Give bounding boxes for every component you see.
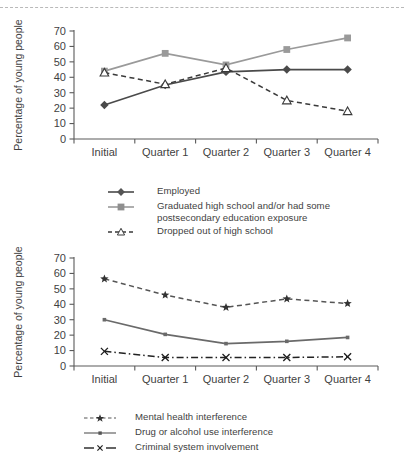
data-point bbox=[283, 96, 292, 104]
y-tick-label: 70 bbox=[54, 252, 66, 264]
data-point bbox=[161, 291, 169, 299]
outcomes-legend: Employed Graduated high school and/or ha… bbox=[0, 185, 404, 239]
y-tick-label: 60 bbox=[54, 40, 66, 52]
series-group bbox=[100, 274, 352, 311]
legend-label: Graduated high school and/or had some po… bbox=[157, 200, 330, 224]
y-tick-label: 10 bbox=[54, 117, 66, 129]
y-tick-label: 20 bbox=[54, 329, 66, 341]
dashdot-x-key bbox=[82, 441, 128, 455]
barriers-legend: Mental health interference Drug or alcoh… bbox=[0, 411, 404, 455]
data-point bbox=[285, 340, 289, 344]
y-tick-label: 50 bbox=[54, 283, 66, 295]
x-tick-label: Quarter 4 bbox=[324, 373, 370, 385]
data-point bbox=[224, 342, 228, 346]
y-tick-label: 20 bbox=[54, 102, 66, 114]
y-tick-label: 10 bbox=[54, 344, 66, 356]
series-group bbox=[101, 348, 351, 361]
legend-label: Drug or alcohol use interference bbox=[135, 426, 273, 438]
data-point bbox=[346, 336, 350, 340]
legend-label: Dropped out of high school bbox=[157, 225, 273, 237]
data-point bbox=[344, 353, 351, 360]
data-point bbox=[103, 318, 107, 322]
y-tick-label: 40 bbox=[54, 71, 66, 83]
outcomes-figure: 010203040506070InitialQuarter 1Quarter 2… bbox=[0, 18, 404, 240]
outcomes-plot: 010203040506070InitialQuarter 1Quarter 2… bbox=[0, 18, 404, 173]
data-point bbox=[344, 35, 351, 42]
y-tick-label: 30 bbox=[54, 87, 66, 99]
legend-label: Employed bbox=[157, 185, 200, 197]
data-point bbox=[343, 65, 351, 73]
series-group bbox=[103, 318, 350, 346]
outcomes-chart-svg: 010203040506070InitialQuarter 1Quarter 2… bbox=[0, 18, 404, 173]
data-point bbox=[163, 333, 167, 337]
legend-label: Criminal system involvement bbox=[135, 441, 258, 453]
x-tick-label: Quarter 3 bbox=[264, 146, 310, 158]
dashed-triangle-key bbox=[104, 225, 150, 239]
y-tick-label: 0 bbox=[60, 133, 66, 145]
y-axis-title: Percentage of young people bbox=[12, 19, 24, 151]
figure-page: 010203040506070InitialQuarter 1Quarter 2… bbox=[0, 0, 404, 460]
legend-item[interactable]: Employed bbox=[104, 185, 404, 199]
legend-item[interactable]: Mental health interference bbox=[82, 411, 404, 425]
legend-label: Mental health interference bbox=[135, 411, 247, 423]
y-tick-label: 70 bbox=[54, 25, 66, 37]
y-tick-label: 30 bbox=[54, 314, 66, 326]
barriers-chart-svg: 010203040506070InitialQuarter 1Quarter 2… bbox=[0, 245, 404, 400]
dashed-star-key bbox=[82, 411, 128, 425]
legend-item[interactable]: Dropped out of high school bbox=[104, 225, 404, 239]
solid-dot-key bbox=[82, 426, 128, 440]
legend-item[interactable]: Criminal system involvement bbox=[82, 441, 404, 455]
x-tick-label: Quarter 2 bbox=[203, 146, 249, 158]
data-point bbox=[100, 274, 108, 282]
barriers-figure: 010203040506070InitialQuarter 1Quarter 2… bbox=[0, 245, 404, 460]
y-tick-label: 0 bbox=[60, 360, 66, 372]
x-tick-label: Quarter 2 bbox=[203, 373, 249, 385]
series-group bbox=[100, 64, 352, 115]
y-tick-label: 50 bbox=[54, 56, 66, 68]
x-tick-label: Quarter 1 bbox=[142, 146, 188, 158]
y-tick-label: 40 bbox=[54, 298, 66, 310]
data-point bbox=[283, 46, 290, 53]
x-tick-label: Quarter 3 bbox=[264, 373, 310, 385]
data-point bbox=[283, 65, 291, 73]
series-line bbox=[104, 351, 347, 357]
x-tick-label: Initial bbox=[92, 373, 118, 385]
data-point bbox=[343, 299, 351, 307]
solid-square-key bbox=[104, 200, 150, 214]
y-tick-label: 60 bbox=[54, 267, 66, 279]
series-line bbox=[104, 320, 347, 344]
x-tick-label: Initial bbox=[92, 146, 118, 158]
legend-item[interactable]: Drug or alcohol use interference bbox=[82, 426, 404, 440]
x-tick-label: Quarter 4 bbox=[324, 146, 370, 158]
solid-diamond-key bbox=[104, 185, 150, 199]
legend-item[interactable]: Graduated high school and/or had some po… bbox=[104, 200, 404, 224]
data-point bbox=[222, 303, 230, 311]
top-dashed-divider bbox=[0, 7, 404, 8]
barriers-plot: 010203040506070InitialQuarter 1Quarter 2… bbox=[0, 245, 404, 400]
data-point bbox=[100, 101, 108, 109]
data-point bbox=[283, 294, 291, 302]
y-axis-title: Percentage of young people bbox=[12, 246, 24, 378]
data-point bbox=[343, 107, 352, 115]
x-tick-label: Quarter 1 bbox=[142, 373, 188, 385]
data-point bbox=[162, 50, 169, 57]
